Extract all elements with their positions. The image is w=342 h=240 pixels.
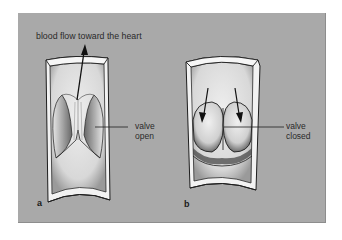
- valve-open-label-line2: open: [135, 131, 154, 141]
- panel-letter-b: b: [184, 199, 190, 209]
- panel-letter-a: a: [37, 198, 42, 208]
- vein-open-illustration: [46, 56, 110, 202]
- blood-flow-label: blood flow toward the heart: [36, 31, 142, 41]
- vein-closed-illustration: [186, 56, 260, 190]
- valve-closed-label-line2: closed: [286, 131, 311, 141]
- valve-open-label-line1: valve: [135, 121, 155, 131]
- valve-closed-label-line1: valve: [286, 121, 306, 131]
